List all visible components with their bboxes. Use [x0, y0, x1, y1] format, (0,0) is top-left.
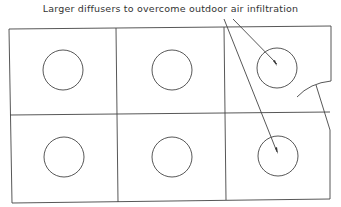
- diffuser-r1c1: [152, 137, 192, 177]
- floor-plan-diagram: [0, 0, 341, 207]
- grid-divider-v1: [116, 28, 118, 202]
- grid-divider-v2: [224, 27, 226, 200]
- grid-divider-h: [10, 112, 330, 115]
- diffuser-r1c0: [44, 137, 84, 177]
- door-leaf: [316, 85, 330, 130]
- diffuser-r1c2: [258, 136, 298, 176]
- diffuser-r0c2: [257, 48, 297, 88]
- diffuser-r0c1: [152, 50, 192, 90]
- leader-line-2: [224, 19, 277, 152]
- diffuser-r0c0: [43, 50, 83, 90]
- door-swing: [297, 81, 331, 97]
- arrowhead-2: [275, 147, 278, 154]
